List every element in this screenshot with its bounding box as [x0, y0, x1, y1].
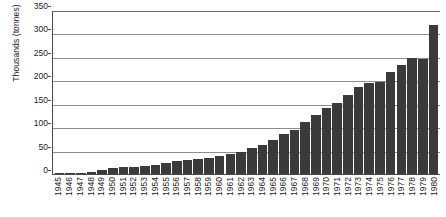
x-tick-label: 1950 [107, 177, 116, 196]
x-axis-ticks: 1945194619471948194919501951195219531954… [52, 176, 440, 217]
y-tick-mark [48, 76, 51, 77]
x-tick-label: 1976 [386, 177, 395, 196]
bar [87, 172, 97, 174]
y-tick-label: 50 [39, 143, 48, 151]
x-tick-cell: 1956 [171, 176, 181, 217]
x-tick-cell: 1951 [118, 176, 128, 217]
x-tick-label: 1977 [397, 177, 406, 196]
bar [418, 59, 428, 174]
y-tick-label: 300 [34, 25, 48, 33]
x-tick-cell: 1959 [204, 176, 214, 217]
x-tick-label: 1956 [172, 177, 181, 196]
y-tick-label: 150 [34, 96, 48, 104]
y-tick-mark [48, 123, 51, 124]
bar [290, 130, 300, 175]
bar [279, 134, 289, 174]
bar [183, 160, 193, 174]
bar-chart: Thousands (tonnes) 050100150200250300350… [0, 0, 446, 217]
x-tick-label: 1971 [333, 177, 342, 196]
y-tick-mark [48, 6, 51, 7]
x-tick-label: 1964 [258, 177, 267, 196]
bar [140, 166, 150, 174]
x-tick-label: 1974 [365, 177, 374, 196]
x-tick-cell: 1964 [257, 176, 267, 217]
bar [429, 25, 439, 174]
x-tick-label: 1945 [54, 177, 63, 196]
plot-area [52, 11, 440, 175]
bar [65, 173, 75, 174]
x-tick-cell: 1966 [279, 176, 289, 217]
bar [151, 165, 161, 174]
x-tick-cell: 1952 [129, 176, 139, 217]
bar [322, 108, 332, 174]
bar [311, 115, 321, 174]
x-tick-label: 1966 [279, 177, 288, 196]
x-tick-label: 1968 [300, 177, 309, 196]
bar-series [53, 11, 440, 174]
x-tick-label: 1970 [322, 177, 331, 196]
x-tick-cell: 1954 [150, 176, 160, 217]
x-tick-label: 1958 [193, 177, 202, 196]
x-tick-cell: 1948 [86, 176, 96, 217]
x-tick-label: 1979 [418, 177, 427, 196]
x-tick-label: 1948 [86, 177, 95, 196]
bar [236, 152, 246, 174]
x-tick-label: 1957 [182, 177, 191, 196]
bar [119, 167, 129, 174]
bar [343, 95, 353, 174]
x-tick-cell: 1963 [246, 176, 256, 217]
x-tick-label: 1949 [97, 177, 106, 196]
x-tick-cell: 1949 [96, 176, 106, 217]
bar [226, 154, 236, 174]
y-tick-label: 250 [34, 49, 48, 57]
x-tick-label: 1953 [140, 177, 149, 196]
y-tick-mark [48, 100, 51, 101]
y-tick-label: 350 [34, 2, 48, 10]
x-tick-cell: 1975 [375, 176, 385, 217]
x-tick-label: 1967 [290, 177, 299, 196]
bar [300, 122, 310, 174]
x-tick-cell: 1958 [193, 176, 203, 217]
x-tick-label: 1960 [215, 177, 224, 196]
y-axis-ticks: 050100150200250300350 [18, 6, 48, 181]
bar [268, 140, 278, 174]
x-tick-cell: 1970 [322, 176, 332, 217]
x-tick-label: 1965 [268, 177, 277, 196]
x-tick-cell: 1977 [397, 176, 407, 217]
bar [397, 65, 407, 174]
x-tick-label: 1959 [204, 177, 213, 196]
x-tick-cell: 1945 [54, 176, 64, 217]
x-tick-cell: 1953 [139, 176, 149, 217]
bar [193, 159, 203, 174]
bar [364, 83, 374, 174]
y-tick-mark [48, 170, 51, 171]
x-tick-label: 1973 [354, 177, 363, 196]
x-tick-cell: 1955 [161, 176, 171, 217]
bar [247, 148, 257, 174]
x-tick-cell: 1980 [429, 176, 439, 217]
x-tick-cell: 1961 [225, 176, 235, 217]
x-tick-cell: 1968 [300, 176, 310, 217]
x-tick-cell: 1971 [332, 176, 342, 217]
y-tick-label: 100 [34, 119, 48, 127]
x-tick-label: 1963 [247, 177, 256, 196]
bar [332, 103, 342, 174]
y-tick-label: 200 [34, 72, 48, 80]
x-tick-label: 1946 [65, 177, 74, 196]
x-tick-cell: 1979 [418, 176, 428, 217]
bar [386, 72, 396, 174]
x-tick-cell: 1973 [354, 176, 364, 217]
bar [204, 158, 214, 174]
x-tick-label: 1947 [75, 177, 84, 196]
x-tick-cell: 1960 [214, 176, 224, 217]
x-tick-cell: 1969 [311, 176, 321, 217]
x-tick-cell: 1972 [343, 176, 353, 217]
x-tick-label: 1975 [375, 177, 384, 196]
bar [76, 173, 86, 174]
x-tick-label: 1952 [129, 177, 138, 196]
x-tick-cell: 1976 [386, 176, 396, 217]
y-tick-mark [48, 147, 51, 148]
x-tick-cell: 1950 [107, 176, 117, 217]
x-tick-cell: 1946 [64, 176, 74, 217]
bar [215, 156, 225, 174]
